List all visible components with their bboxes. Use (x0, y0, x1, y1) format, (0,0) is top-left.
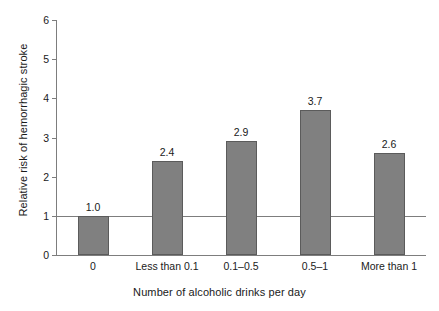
y-tick-mark (52, 98, 56, 99)
y-tick-mark (52, 59, 56, 60)
y-tick-label: 0 (43, 250, 49, 261)
y-tick-label: 3 (43, 132, 49, 143)
x-tick-label: More than 1 (344, 261, 434, 272)
bar (300, 110, 331, 255)
y-tick-label: 1 (43, 211, 49, 222)
bar-value-label: 2.6 (359, 139, 419, 150)
x-axis-line (56, 255, 426, 256)
y-tick-mark (52, 216, 56, 217)
y-tick-mark (52, 138, 56, 139)
bar (78, 216, 109, 255)
y-tick-mark (52, 255, 56, 256)
x-axis-title: Number of alcoholic drinks per day (0, 286, 439, 298)
bar (374, 153, 405, 255)
y-tick-label: 4 (43, 93, 49, 104)
y-axis-line (56, 20, 57, 256)
bar-value-label: 3.7 (285, 96, 345, 107)
bar-value-label: 2.4 (137, 147, 197, 158)
plot-area: 0123456 1.02.42.93.72.6 0Less than 0.10.… (56, 20, 425, 255)
y-tick-label: 6 (43, 15, 49, 26)
bar-value-label: 2.9 (211, 127, 271, 138)
y-tick-label: 2 (43, 171, 49, 182)
bar-value-label: 1.0 (63, 202, 123, 213)
y-tick-label: 5 (43, 54, 49, 65)
bar (152, 161, 183, 255)
bar (226, 141, 257, 255)
bar-chart-figure: Relative risk of hemorrhagic stroke Numb… (0, 0, 439, 311)
y-axis-title: Relative risk of hemorrhagic stroke (17, 15, 29, 245)
y-tick-mark (52, 177, 56, 178)
y-tick-mark (52, 20, 56, 21)
